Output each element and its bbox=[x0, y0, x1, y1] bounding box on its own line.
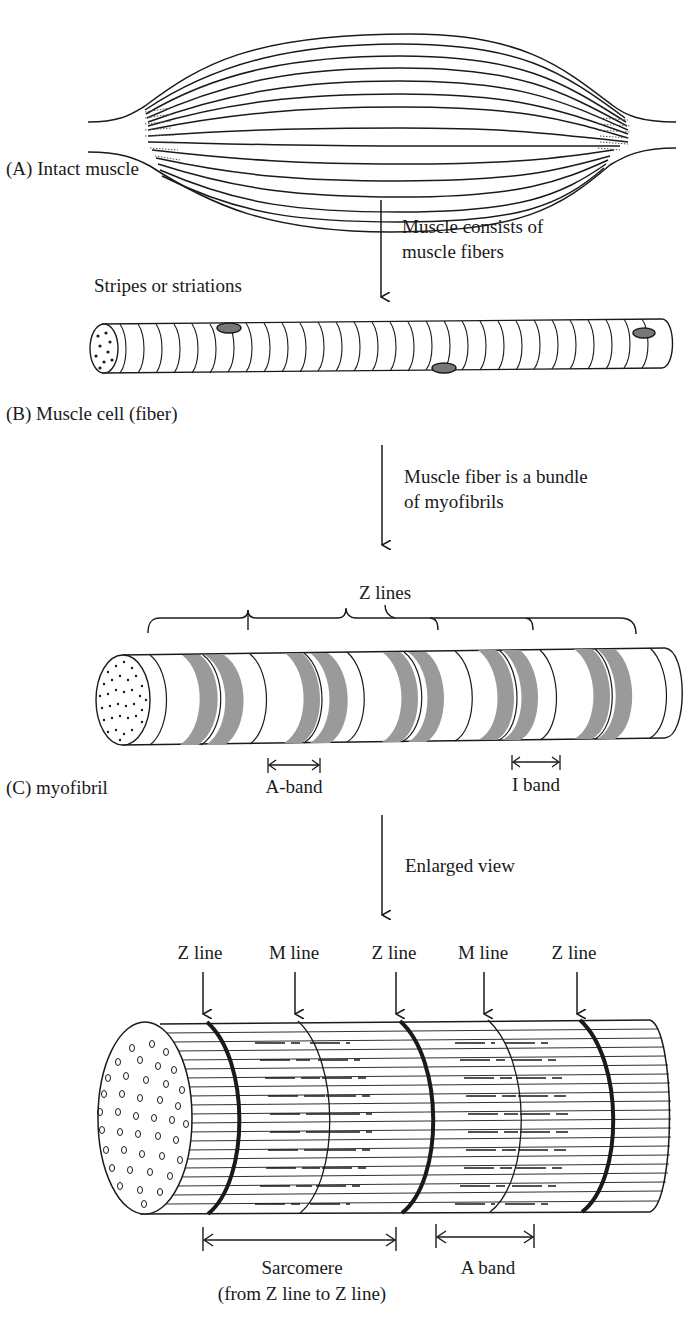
a-band-label-enlarged: A band bbox=[461, 1257, 515, 1279]
striations-label: Stripes or striations bbox=[94, 275, 242, 297]
a-band-label: A-band bbox=[266, 776, 323, 798]
muscle-fiber-illustration bbox=[90, 319, 673, 373]
sarcomere-label: Sarcomere bbox=[261, 1257, 342, 1279]
z-line-label-1: Z line bbox=[178, 942, 223, 964]
nucleus-icon bbox=[633, 328, 655, 338]
arrow1-caption-line2: muscle fibers bbox=[402, 240, 504, 264]
i-band-label: I band bbox=[512, 774, 560, 796]
arrow1-caption-line1: Muscle consists of bbox=[402, 215, 543, 239]
panel-a-label: (A) Intact muscle bbox=[6, 158, 139, 180]
panel-b-label: (B) Muscle cell (fiber) bbox=[6, 403, 177, 425]
intact-muscle-illustration bbox=[88, 34, 676, 232]
arrow3-caption: Enlarged view bbox=[405, 855, 515, 877]
nucleus-icon bbox=[217, 323, 241, 333]
m-line-label-1: M line bbox=[269, 942, 319, 964]
sarcomere-sublabel: (from Z line to Z line) bbox=[218, 1283, 386, 1305]
z-lines-label: Z lines bbox=[359, 582, 411, 604]
z-line-label-2: Z line bbox=[372, 942, 417, 964]
z-line-label-3: Z line bbox=[552, 942, 597, 964]
sarcomere-illustration bbox=[98, 972, 672, 1251]
arrow2-caption-line1: Muscle fiber is a bundle bbox=[404, 465, 588, 489]
diagram-artwork bbox=[0, 0, 689, 1322]
panel-c-label: (C) myofibril bbox=[6, 777, 108, 799]
nucleus-icon bbox=[432, 363, 456, 373]
myofibril-illustration bbox=[96, 605, 682, 773]
arrow2-caption-line2: of myofibrils bbox=[404, 490, 504, 514]
m-line-label-2: M line bbox=[458, 942, 508, 964]
